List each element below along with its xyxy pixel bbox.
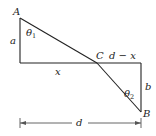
angle-theta1-label: θ1 (26, 27, 36, 40)
arrowhead-left-icon (20, 121, 26, 125)
length-b-label: b (145, 81, 151, 92)
length-d-label: d (76, 117, 82, 128)
geometry-diagram: A a θ1 x C d − x b θ2 B d (0, 0, 156, 136)
point-C-label: C (96, 50, 104, 61)
length-d-minus-x-label: d − x (109, 50, 136, 61)
length-x-label: x (55, 66, 61, 77)
arrowhead-right-icon (135, 121, 141, 125)
segment-AC (20, 18, 97, 63)
length-a-label: a (10, 35, 16, 46)
angle-theta2-label: θ2 (124, 88, 134, 101)
segment-CB (97, 63, 141, 112)
point-A-label: A (12, 6, 20, 17)
point-B-label: B (142, 108, 150, 119)
